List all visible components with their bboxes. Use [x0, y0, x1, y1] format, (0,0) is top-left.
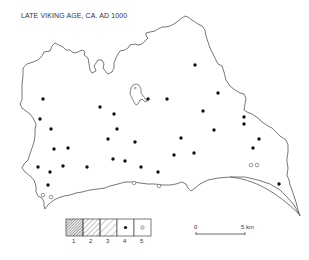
open-site-dot — [157, 184, 161, 188]
legend-label-4: 4 — [123, 238, 126, 244]
filled-site-dot — [98, 105, 101, 108]
filled-site-dot — [156, 170, 159, 173]
scale-bar — [196, 232, 245, 235]
open-site-dot — [132, 181, 136, 185]
legend-label-1: 1 — [72, 238, 75, 244]
filled-site-dot — [277, 182, 280, 185]
legend — [66, 219, 151, 236]
filled-site-dot — [172, 153, 175, 156]
legend-box-5 — [134, 219, 151, 236]
open-site-dot — [249, 163, 253, 167]
filled-site-dot — [61, 164, 64, 167]
filled-site-dot — [139, 165, 142, 168]
open-site-dot — [49, 195, 53, 199]
filled-site-dot — [52, 147, 55, 150]
legend-label-5: 5 — [140, 238, 143, 244]
legend-box-3 — [100, 219, 117, 236]
filled-site-dot — [192, 151, 195, 154]
filled-site-dot — [106, 137, 109, 140]
filled-site-dot — [46, 183, 49, 186]
filled-site-dot — [212, 128, 215, 131]
filled-site-dot — [115, 127, 118, 130]
filled-site-dot — [146, 97, 149, 100]
filled-site-dot — [111, 157, 114, 160]
filled-site-dot — [85, 165, 88, 168]
open-site-dot — [41, 193, 45, 197]
filled-site-dot — [36, 165, 39, 168]
filled-site-dot — [251, 146, 254, 149]
legend-label-3: 3 — [106, 238, 109, 244]
filled-site-dot — [123, 159, 126, 162]
scale-start-label: 0 — [194, 224, 197, 230]
open-site-dot — [255, 163, 259, 167]
lake-island-marker — [134, 87, 136, 89]
filled-site-dot — [133, 140, 136, 143]
filled-site-dot — [66, 146, 69, 149]
filled-site-dot — [242, 115, 245, 118]
filled-site-dot — [38, 117, 41, 120]
filled-site-dot — [48, 170, 51, 173]
filled-site-dot — [257, 137, 260, 140]
filled-site-dot — [112, 112, 115, 115]
filled-site-dot — [201, 109, 204, 112]
lake-outline — [130, 84, 147, 105]
filled-site-dot — [179, 136, 182, 139]
filled-site-dot — [193, 63, 196, 66]
filled-site-markers — [36, 63, 280, 186]
legend-label-2: 2 — [89, 238, 92, 244]
legend-box-1 — [66, 219, 83, 236]
filled-site-dot — [165, 97, 168, 100]
legend-filled-dot-icon — [124, 226, 127, 229]
filled-site-dot — [216, 91, 219, 94]
filled-site-dot — [242, 122, 245, 125]
filled-site-dot — [41, 97, 44, 100]
map-canvas — [0, 0, 309, 260]
legend-box-2 — [83, 219, 100, 236]
filled-site-dot — [49, 127, 52, 130]
scale-end-label: 5 km — [241, 224, 254, 230]
